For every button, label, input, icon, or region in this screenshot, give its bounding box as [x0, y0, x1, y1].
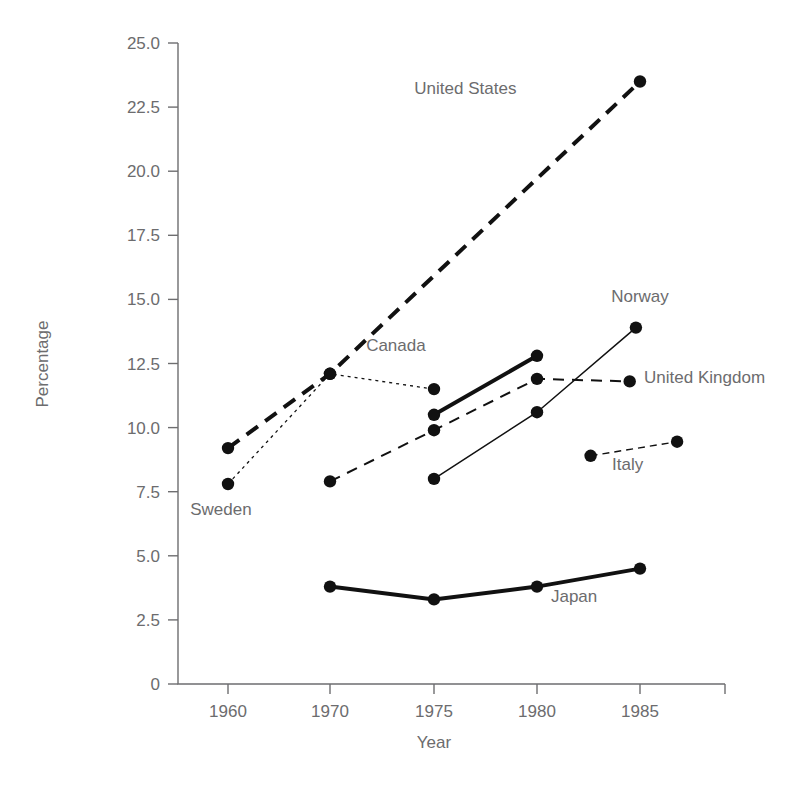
data-point	[634, 75, 646, 87]
x-axis-title: Year	[417, 733, 452, 752]
axis-titles-group: YearPercentage	[33, 321, 452, 752]
data-point	[324, 580, 336, 592]
series-label-united-kingdom: United Kingdom	[644, 368, 765, 387]
data-point	[428, 593, 440, 605]
series-united-states	[222, 75, 646, 454]
y-tick-label: 12.5	[127, 355, 160, 374]
data-point	[624, 375, 636, 387]
data-point	[671, 436, 683, 448]
y-tick-label: 10.0	[127, 419, 160, 438]
chart-canvas: 02.55.07.510.012.515.017.520.022.525.019…	[0, 0, 794, 794]
y-tick-label: 17.5	[127, 226, 160, 245]
series-norway	[428, 321, 642, 485]
data-point	[428, 409, 440, 421]
percentage-by-year-line-chart: 02.55.07.510.012.515.017.520.022.525.019…	[0, 0, 794, 794]
data-point	[324, 368, 336, 380]
y-tick-label: 15.0	[127, 290, 160, 309]
series-label-japan: Japan	[551, 587, 597, 606]
series-japan	[324, 562, 646, 605]
data-point	[584, 450, 596, 462]
y-tick-label: 25.0	[127, 34, 160, 53]
series-label-sweden: Sweden	[190, 500, 251, 519]
data-point	[222, 478, 234, 490]
x-tick-label: 1975	[415, 702, 453, 721]
data-point	[634, 562, 646, 574]
data-point	[428, 424, 440, 436]
data-point	[428, 383, 440, 395]
series-line	[228, 374, 434, 484]
series-label-united-states: United States	[414, 79, 516, 98]
axes-group: 02.55.07.510.012.515.017.520.022.525.019…	[127, 34, 725, 721]
series-labels-group: United StatesSwedenCanadaUnited KingdomN…	[190, 79, 765, 606]
x-tick-label: 1985	[621, 702, 659, 721]
data-point	[324, 475, 336, 487]
data-point	[531, 350, 543, 362]
y-tick-label: 2.5	[136, 611, 160, 630]
series-label-norway: Norway	[611, 287, 669, 306]
data-point	[222, 442, 234, 454]
x-tick-label: 1960	[209, 702, 247, 721]
y-tick-label: 0	[151, 675, 160, 694]
series-label-canada: Canada	[366, 336, 426, 355]
x-tick-label: 1980	[518, 702, 556, 721]
y-tick-label: 7.5	[136, 483, 160, 502]
y-tick-label: 20.0	[127, 162, 160, 181]
data-point	[428, 473, 440, 485]
x-tick-label: 1970	[311, 702, 349, 721]
data-point	[630, 321, 642, 333]
data-point	[531, 406, 543, 418]
series-line	[434, 356, 537, 415]
y-tick-label: 22.5	[127, 98, 160, 117]
series-line	[330, 379, 630, 482]
y-tick-label: 5.0	[136, 547, 160, 566]
axis-lines	[178, 43, 725, 684]
series-group	[222, 75, 684, 605]
series-line	[591, 442, 678, 456]
series-label-italy: Italy	[612, 455, 644, 474]
data-point	[531, 373, 543, 385]
y-axis-title: Percentage	[33, 321, 52, 408]
data-point	[531, 580, 543, 592]
